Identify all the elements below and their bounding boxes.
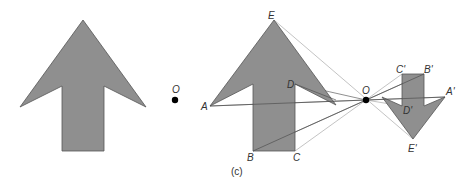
left-center-label: O xyxy=(172,84,180,95)
label-D: D xyxy=(287,79,294,90)
right-center-label: O xyxy=(362,85,370,96)
object-arrow-shape xyxy=(210,20,336,151)
label-C: C xyxy=(293,152,301,163)
label-A: A xyxy=(200,101,208,112)
label-C-prime: C' xyxy=(396,64,406,75)
label-B: B xyxy=(247,152,254,163)
label-B-prime: B' xyxy=(424,64,434,75)
right-center-point xyxy=(363,97,369,103)
image-arrow-shape xyxy=(382,74,445,139)
enlargement-diagram: O E A D B C O C' B' A' D' E' (c) xyxy=(0,0,474,186)
label-D-prime: D' xyxy=(403,105,413,116)
label-A-prime: A' xyxy=(445,86,456,97)
label-E-prime: E' xyxy=(408,143,418,154)
caption: (c) xyxy=(231,166,243,177)
left-center-point xyxy=(172,97,178,103)
label-E: E xyxy=(268,10,275,21)
left-arrow-shape xyxy=(20,20,146,151)
